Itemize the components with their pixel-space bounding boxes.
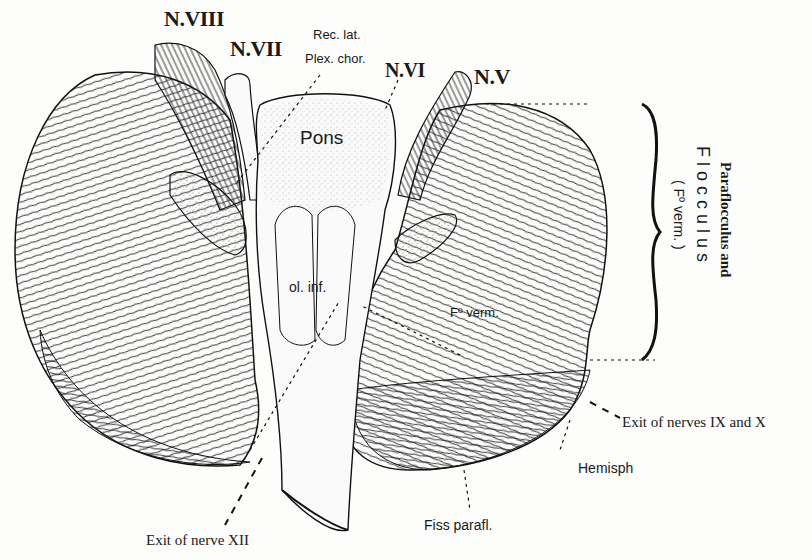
cerebellum-drawing: [0, 0, 812, 559]
label-exit-nerves-ix-x: Exit of nerves IX and X: [622, 415, 766, 430]
label-paraflocculus: Paraflocculus and: [718, 162, 733, 277]
label-nerve-vii: N.VII: [230, 38, 282, 60]
label-ol-inf: ol. inf.: [289, 280, 326, 294]
label-fo-verm-paren: ( Fº verm. ): [672, 180, 686, 250]
label-nerve-vi: N.VI: [385, 60, 425, 80]
label-rec-lat: Rec. lat.: [313, 28, 361, 41]
label-fo-verm: Fº verm.: [450, 306, 499, 319]
label-fiss-parafl: Fiss parafl.: [424, 518, 492, 532]
flocculus-bracket: [642, 104, 660, 360]
label-nerve-viii: N.VIII: [164, 8, 224, 30]
label-hemisph: Hemisph: [578, 461, 633, 475]
label-pons: Pons: [300, 128, 343, 147]
label-plex-chor: Plex. chor.: [305, 52, 366, 65]
label-exit-nerve-xii: Exit of nerve XII: [146, 533, 249, 548]
anatomical-figure: N.VIII N.VII N.VI N.V Rec. lat. Plex. ch…: [0, 0, 812, 559]
label-flocculus: F l o c c u l u s: [694, 146, 712, 262]
label-nerve-v: N.V: [474, 66, 510, 88]
